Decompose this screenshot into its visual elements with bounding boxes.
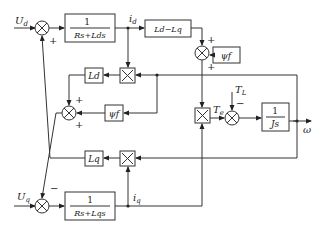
tl-label: TL (235, 84, 247, 97)
sign-mid-bottom: + (75, 119, 83, 130)
sum-junction-d (35, 21, 49, 35)
multiplier-top (120, 68, 135, 83)
sign-d-bottom: + (49, 35, 57, 46)
sum-junction-q (35, 199, 49, 213)
q-block-numerator: 1 (87, 195, 93, 205)
ld-lq-label: Ld−Lq (153, 25, 182, 34)
psi-f-top-label: ψf (221, 51, 233, 61)
psi-f-mid-label: ψf (109, 109, 121, 119)
sum-junction-mid (62, 106, 76, 120)
pmsm-block-diagram: Ud + 1 Rs+Lds id Ld−Lq + + ψf Ld + + ψf … (0, 0, 322, 233)
sign-flux-top: + (207, 34, 215, 45)
d-block-numerator: 1 (84, 17, 90, 27)
multiplier-torque (195, 108, 210, 123)
mech-denominator: Js (269, 119, 280, 129)
ud-label: Ud (15, 15, 28, 28)
multiplier-bottom (120, 151, 135, 166)
sign-mid-top: + (75, 94, 83, 105)
te-label: Te (213, 104, 224, 117)
omega-label: ω (303, 124, 311, 135)
iq-label: iq (133, 192, 141, 205)
sum-junction-flux (195, 46, 209, 60)
q-block-denominator: Rs+Lqs (73, 209, 105, 218)
ld-label: Ld (87, 71, 100, 81)
d-block-denominator: Rs+Lds (73, 31, 105, 40)
id-label: id (129, 13, 137, 26)
sign-torque: − (236, 98, 244, 109)
uq-label: Uq (17, 191, 30, 204)
mech-numerator: 1 (272, 106, 278, 116)
sign-q-top: − (50, 183, 58, 194)
lq-label: Lq (87, 154, 100, 164)
sign-flux-bottom: + (207, 61, 215, 72)
sum-junction-torque (225, 111, 239, 125)
